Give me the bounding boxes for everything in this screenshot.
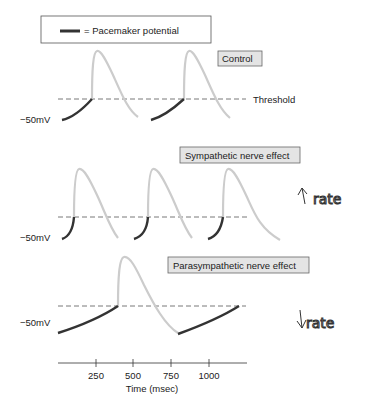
legend-text: = Pacemaker potential bbox=[84, 25, 179, 36]
pacemaker-potential bbox=[151, 99, 184, 120]
action-potential bbox=[223, 169, 280, 240]
tick-label: 750 bbox=[163, 370, 179, 381]
panel-parasympathetic: Parasympathetic nerve effect −50mV rate bbox=[20, 257, 334, 334]
panel-title: Control bbox=[222, 53, 253, 64]
baseline-label: −50mV bbox=[20, 114, 51, 125]
pacemaker-potential bbox=[62, 217, 74, 239]
action-potential bbox=[74, 169, 118, 238]
panel-title: Sympathetic nerve effect bbox=[185, 150, 290, 161]
action-potential bbox=[148, 169, 192, 238]
baseline-label: −50mV bbox=[20, 232, 51, 243]
pacemaker-diagram: = Pacemaker potential Control Threshold … bbox=[0, 0, 371, 402]
tick-label: 500 bbox=[125, 370, 141, 381]
legend: = Pacemaker potential bbox=[41, 16, 211, 43]
panel-title: Parasympathetic nerve effect bbox=[173, 260, 296, 271]
action-potential bbox=[92, 51, 138, 117]
axis-label: Time (msec) bbox=[126, 383, 178, 394]
pacemaker-potential bbox=[208, 217, 223, 239]
threshold-label: Threshold bbox=[253, 94, 295, 105]
pacemaker-potential bbox=[134, 217, 148, 239]
down-arrow-icon bbox=[297, 310, 306, 328]
pacemaker-potential bbox=[62, 99, 92, 120]
panel-sympathetic: Sympathetic nerve effect −50mV rate bbox=[20, 147, 341, 243]
time-axis: 250 500 750 1000 Time (msec) bbox=[58, 359, 247, 394]
panel-control: Control Threshold −50mV bbox=[20, 51, 295, 125]
pacemaker-potential bbox=[58, 306, 118, 333]
pacemaker-potential bbox=[178, 306, 239, 334]
up-arrow-icon bbox=[298, 188, 307, 204]
baseline-label: −50mV bbox=[20, 317, 51, 328]
rate-annotation: rate bbox=[306, 315, 334, 331]
rate-annotation: rate bbox=[313, 191, 341, 207]
tick-label: 250 bbox=[88, 370, 104, 381]
tick-label: 1000 bbox=[198, 370, 219, 381]
